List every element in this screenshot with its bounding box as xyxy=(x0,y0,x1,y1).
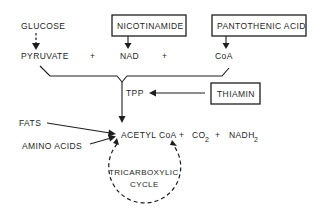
amino-acids-to-acetyl-coa-arrow xyxy=(90,135,116,145)
cycle-label-line1: TRICARBOXYLIC xyxy=(109,168,179,177)
glucose-label: GLUCOSE xyxy=(21,21,65,31)
pathway-diagram: GLUCOSE NICOTINAMIDE PANTOTHENIC ACID PY… xyxy=(0,0,326,220)
plus-sign: + xyxy=(162,51,167,61)
convergence-bracket xyxy=(40,66,229,82)
thiamin-to-tpp-arrow xyxy=(149,90,205,97)
co2-base: CO xyxy=(192,130,206,140)
nicotinamide-label: NICOTINAMIDE xyxy=(117,21,184,31)
coa-label: CoA xyxy=(215,51,233,61)
pantothenic-to-coa-arrow xyxy=(223,36,230,49)
nadh2-label: NADH xyxy=(229,130,255,140)
plus-sign: + xyxy=(90,51,95,61)
co2-subscript: 2 xyxy=(205,136,209,143)
pantothenic-acid-label: PANTOTHENIC ACID xyxy=(217,21,306,31)
glucose-to-pyruvate-arrow xyxy=(32,33,40,50)
acetyl-coa-equation: ACETYL CoA + CO 2 + NADH 2 xyxy=(121,130,258,143)
cycle-arrowhead-right xyxy=(170,140,177,146)
fats-to-acetyl-coa-arrow xyxy=(47,123,116,137)
thiamin-box: THIAMIN xyxy=(211,83,260,104)
tpp-label: TPP xyxy=(126,88,144,98)
amino-acids-label: AMINO ACIDS xyxy=(22,141,82,151)
plus-sign: + xyxy=(215,130,220,140)
nadh2-base: NADH xyxy=(229,130,255,140)
cycle-label-line2: CYCLE xyxy=(130,180,159,189)
tricarboxylic-cycle: TRICARBOXYLIC CYCLE xyxy=(109,138,181,203)
pyruvate-to-acetyl-coa-arrow xyxy=(119,82,126,123)
nicotinamide-box: NICOTINAMIDE xyxy=(112,15,186,36)
cycle-arrowhead-left xyxy=(113,138,119,145)
pyruvate-label: PYRUVATE xyxy=(21,51,69,61)
plus-sign: + xyxy=(179,130,184,140)
co2-label: CO xyxy=(192,130,206,140)
pantothenic-acid-box: PANTOTHENIC ACID xyxy=(212,15,306,36)
nadh2-subscript: 2 xyxy=(254,136,258,143)
acetyl-coa-label: ACETYL CoA xyxy=(121,130,177,140)
thiamin-label: THIAMIN xyxy=(217,89,255,99)
fats-label: FATS xyxy=(19,118,41,128)
nicotinamide-to-nad-arrow xyxy=(125,36,132,49)
nad-label: NAD xyxy=(120,51,139,61)
